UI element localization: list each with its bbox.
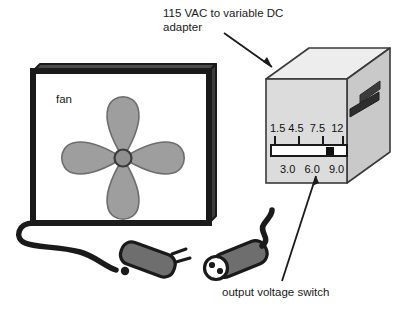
fan-power-cable <box>19 223 116 270</box>
fan-hub <box>115 150 132 167</box>
annotation-arrow-switch <box>282 176 319 281</box>
fan-label: fan <box>56 92 72 106</box>
fan-unit <box>33 64 216 223</box>
adapter-output-cable <box>262 210 272 246</box>
voltage-scale-top-values: 1.5 4.5 7.5 12 <box>270 122 343 134</box>
male-plug-prong-upper <box>172 249 186 254</box>
voltage-scale-bottom-values: 3.0 6.0 9.0 <box>280 163 344 175</box>
voltage-slider-marker[interactable] <box>326 147 334 155</box>
female-socket-hole-2 <box>217 268 223 274</box>
male-barrel-plug <box>118 239 190 280</box>
voltage-scale-bar[interactable] <box>271 145 347 156</box>
fan-adapter-diagram <box>0 0 404 317</box>
male-plug-collar <box>121 267 129 275</box>
female-socket-hole-1 <box>209 262 215 268</box>
output-voltage-switch-label: output voltage switch <box>222 285 329 299</box>
adapter-annotation-label: 115 VAC to variable DC adapter <box>163 6 313 35</box>
annotation-arrow-adapter <box>224 33 272 67</box>
female-socket-face <box>205 257 228 280</box>
male-plug-prong-lower <box>176 258 190 262</box>
